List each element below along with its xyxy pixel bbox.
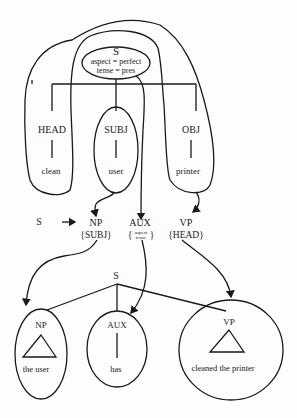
top-root-label: S [113,45,119,57]
np-triangle-icon [23,335,56,357]
bottom-np-yield: the user [23,364,50,374]
rule-aux-tense: tense [136,235,147,240]
rule-aux-brace-close: } [150,230,155,240]
top-child-obj-role: OBJ [182,124,200,135]
bottom-np-cat: NP [35,320,47,330]
bottom-tree: S NP the user AUX has VP cleaned the pri… [15,270,283,400]
rule-np-annotation: {SUBJ} [80,230,111,240]
vp-to-bottom-vp-arrow [182,240,231,297]
top-child-subj-role: SUBJ [104,124,127,135]
bottom-vp-yield: cleaned the printer [191,363,254,373]
rule-vp-cat: VP [180,217,193,228]
diagram-canvas: S aspect = perfect tense = pres HEAD cle… [0,0,297,418]
rule-aux-brace-open: { [128,230,133,240]
top-child-head-role: HEAD [38,124,66,135]
bottom-tree-branches [47,284,226,311]
top-child-obj-word: printer [176,166,200,176]
bottom-vp-ellipse [179,300,283,400]
bottom-aux-cat: AUX [107,320,127,330]
rule-vp-annotation: {HEAD} [168,230,204,240]
top-tree-branches [32,80,196,111]
aux-feature-arrow [136,76,144,219]
subj-to-np-arrow [95,193,114,216]
obj-to-vp-arrow [193,192,199,212]
feature-aspect: aspect = perfect [91,57,142,66]
top-tree: S aspect = perfect tense = pres HEAD cle… [25,20,214,219]
rule-aux-cat: AUX [129,217,151,228]
aux-to-bottom-aux-arrow [131,240,146,313]
top-child-subj-word: user [109,166,124,176]
rule-lhs: S [36,216,42,227]
top-child-head-word: clean [42,166,61,176]
feature-tense: tense = pres [97,66,135,75]
bottom-vp-cat: VP [223,317,235,327]
vp-triangle-icon [210,330,244,352]
rule-np-cat: NP [90,217,103,228]
phrase-structure-rule: S NP {SUBJ} AUX { aspect tense } VP {HEA… [36,216,204,240]
bottom-aux-yield: has [110,364,121,374]
bottom-root-label: S [113,270,119,281]
